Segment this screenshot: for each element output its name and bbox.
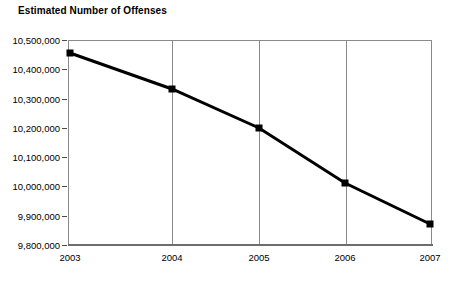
x-tick-label: 2006 [334,252,355,263]
x-tick-label: 2004 [161,252,182,263]
x-tick-label: 2003 [59,252,80,263]
data-point-2005 [256,125,263,132]
x-tick-label: 2007 [419,252,440,263]
data-point-2004 [169,86,176,93]
offenses-trend-line [70,53,430,224]
data-point-2007 [427,221,434,228]
data-point-2006 [342,180,349,187]
data-point-2003 [67,50,74,57]
estimated-offenses-line-chart: Estimated Number of Offenses 9,800,000 9… [0,0,461,281]
data-series-layer [0,0,461,281]
x-tick-label: 2005 [248,252,269,263]
